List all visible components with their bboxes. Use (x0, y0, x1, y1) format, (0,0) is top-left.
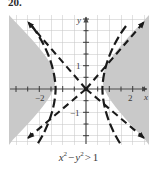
y-tick-label-neg1: −1 (70, 108, 80, 118)
x-tick-label-neg2: −2 (35, 93, 45, 103)
inequality-caption: x2−y2>1 (0, 150, 158, 163)
y-tick-label-1: 1 (76, 61, 81, 71)
graph-panel: x y −2 2 1 −1 (8, 14, 150, 146)
x-tick-label-2: 2 (128, 93, 133, 103)
figure-container: 20. (0, 0, 158, 175)
y-axis-label: y (76, 15, 81, 25)
origin-point (84, 87, 88, 91)
problem-number: 20. (8, 0, 22, 8)
coordinate-plane-svg: x y −2 2 1 −1 (8, 14, 150, 146)
equation-right-side: 1 (92, 151, 100, 163)
x-axis-label: x (143, 92, 148, 102)
equation-relation-sign: > (84, 151, 92, 163)
